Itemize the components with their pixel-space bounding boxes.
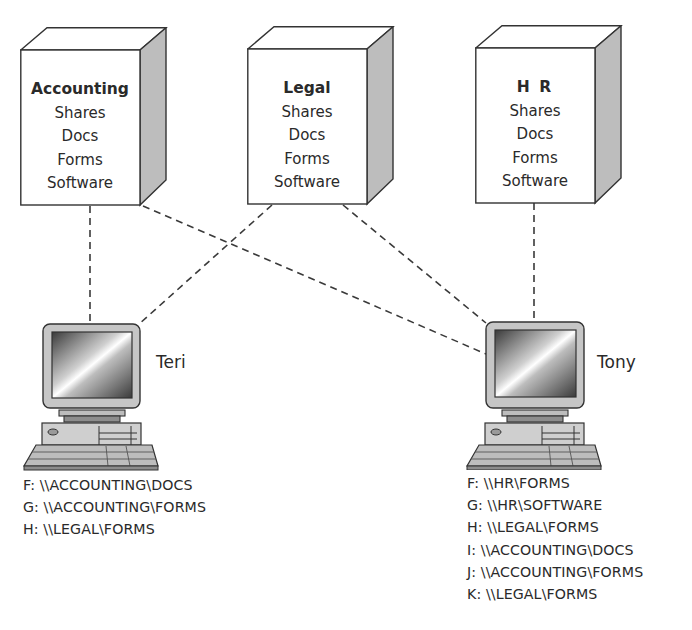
server-legal: Legal Shares Docs Forms Software xyxy=(247,26,397,206)
connection-legal-teri xyxy=(138,205,272,325)
drive-mapping: G: \\HR\SOFTWARE xyxy=(467,494,643,516)
server-title: Legal xyxy=(247,77,367,101)
computer-icon xyxy=(466,320,616,470)
computer-icon xyxy=(22,322,172,472)
share-item: Docs xyxy=(247,124,367,148)
drive-mapping: G: \\ACCOUNTING\FORMS xyxy=(23,496,206,518)
user-label-teri: Teri xyxy=(156,352,186,372)
share-item: Shares xyxy=(475,100,595,124)
connection-accounting-tony xyxy=(143,206,486,354)
computer-teri xyxy=(22,322,172,472)
drive-mappings-tony: F: \\HR\FORMS G: \\HR\SOFTWARE H: \\LEGA… xyxy=(467,472,643,605)
drive-mapping: H: \\LEGAL\FORMS xyxy=(467,516,643,538)
server-title: H R xyxy=(475,76,595,100)
drive-mapping: F: \\ACCOUNTING\DOCS xyxy=(23,474,206,496)
server-hr: H R Shares Docs Forms Software xyxy=(475,25,625,205)
share-item: Software xyxy=(475,170,595,194)
share-item: Docs xyxy=(475,123,595,147)
drive-mapping: I: \\ACCOUNTING\DOCS xyxy=(467,539,643,561)
share-item: Shares xyxy=(247,101,367,125)
computer-tony xyxy=(466,320,616,470)
drive-mapping: F: \\HR\FORMS xyxy=(467,472,643,494)
share-item: Software xyxy=(20,172,140,196)
share-item: Forms xyxy=(20,149,140,173)
server-title: Accounting xyxy=(20,78,140,102)
share-item: Forms xyxy=(475,147,595,171)
drive-mapping: J: \\ACCOUNTING\FORMS xyxy=(467,561,643,583)
share-item: Forms xyxy=(247,148,367,172)
drive-mapping: K: \\LEGAL\FORMS xyxy=(467,583,643,605)
server-accounting: Accounting Shares Docs Forms Software xyxy=(20,27,170,207)
user-label-tony: Tony xyxy=(597,352,636,372)
drive-mapping: H: \\LEGAL\FORMS xyxy=(23,518,206,540)
share-item: Shares xyxy=(20,102,140,126)
drive-mappings-teri: F: \\ACCOUNTING\DOCS G: \\ACCOUNTING\FOR… xyxy=(23,474,206,541)
connection-legal-tony xyxy=(343,205,486,323)
share-item: Docs xyxy=(20,125,140,149)
share-item: Software xyxy=(247,171,367,195)
